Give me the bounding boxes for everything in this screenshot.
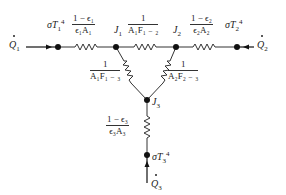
q2-dot-accent [261,35,263,37]
r-surf1-num: 1 − ϵ₁ [72,14,95,25]
r12-den: A₁F₁ ₋ ₂ [128,25,158,35]
r12-num: 1 [128,14,158,25]
r13-den: A₁F₁ ₋ ₃ [90,71,120,81]
r-surf1-den: ϵ₁A₁ [72,25,95,35]
q3-sub: 3 [158,184,162,192]
resistor-13-label: 1 A₁F₁ ₋ ₃ [90,60,120,81]
j1-label: J1 [114,25,122,38]
resistor-12-label: 1 A₁F₁ ₋ ₂ [128,14,158,35]
r-surf2-den: ϵ₂A₂ [190,25,213,35]
resistor-surface-1-label: 1 − ϵ₁ ϵ₁A₁ [72,14,95,35]
eb3-sup: 4 [166,150,170,158]
resistor-surface-2-label: 1 − ϵ₂ ϵ₂A₂ [190,14,213,35]
eb2-label: σT24 [225,19,243,33]
r-surf3-den: ϵ₃A₃ [106,126,129,136]
eb1-sub: 1 [58,25,62,33]
eb2-sup: 4 [239,18,243,26]
q1-dot-accent [13,35,15,37]
eb1-symbol: σT [47,19,58,30]
q3-dot-accent [155,174,157,176]
eb3-label: σT34 [152,151,170,165]
r23-num: 1 [168,60,198,71]
eb1-sup: 4 [61,18,65,26]
j3-sub: 3 [156,102,160,110]
j1-sub: 1 [118,30,122,38]
j2-sub: 2 [177,30,181,38]
q2-sub: 2 [264,45,268,53]
resistor-surface-3-label: 1 − ϵ₃ ϵ₃A₃ [106,115,129,136]
eb2-sub: 2 [236,25,240,33]
q1-label: Q1 [9,40,20,53]
r-surf2-num: 1 − ϵ₂ [190,14,213,25]
r23-den: A₂F₂ ₋ ₃ [168,71,198,81]
q3-label: Q3 [151,179,162,192]
eb3-sub: 3 [163,157,167,165]
j2-label: J2 [173,25,181,38]
r-surf3-num: 1 − ϵ₃ [106,115,129,126]
eb1-label: σT14 [47,19,65,33]
q1-sub: 1 [16,45,20,53]
resistor-23-label: 1 A₂F₂ ₋ ₃ [168,60,198,81]
j3-label: J3 [152,97,160,110]
r13-num: 1 [90,60,120,71]
eb3-symbol: σT [152,151,163,162]
eb2-symbol: σT [225,19,236,30]
q2-label: Q2 [257,40,268,53]
